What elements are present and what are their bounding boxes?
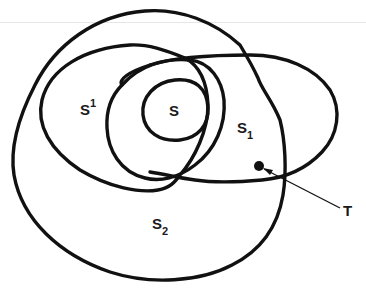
label-s2: S2	[152, 216, 168, 235]
point-t-dot	[254, 161, 264, 171]
arrowhead-icon	[263, 168, 273, 175]
label-t: T	[343, 203, 352, 218]
label-s1: S1	[237, 120, 253, 139]
venn-diagram	[0, 0, 366, 293]
label-s: S	[169, 103, 179, 118]
point-t-pointer-line	[264, 169, 340, 208]
label-s-prime: S1	[80, 100, 96, 117]
